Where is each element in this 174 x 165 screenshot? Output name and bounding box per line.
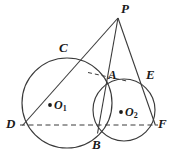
point-label-B: B [92, 138, 101, 151]
circle-O1 [22, 58, 112, 148]
point-label-A: A [108, 68, 117, 81]
geometry-canvas [0, 0, 174, 165]
point-label-P: P [121, 2, 129, 15]
line-P-D [23, 18, 119, 126]
center-dot-O2 [119, 110, 123, 114]
center-label-O2: O2 [125, 106, 138, 120]
point-label-C: C [59, 41, 68, 54]
center-label-O2-letter: O [125, 105, 134, 119]
center-dot-O1 [48, 103, 52, 107]
point-label-E: E [146, 68, 155, 81]
point-label-D: D [6, 117, 15, 130]
center-label-O1-subscript: 1 [63, 104, 67, 113]
center-label-O2-subscript: 2 [134, 111, 138, 120]
center-label-O1: O1 [54, 99, 67, 113]
circle-O2 [93, 79, 155, 141]
point-label-F: F [158, 117, 167, 130]
geometry-figure: P C A E D F B O1 O2 [0, 0, 174, 165]
center-label-O1-letter: O [54, 98, 63, 112]
